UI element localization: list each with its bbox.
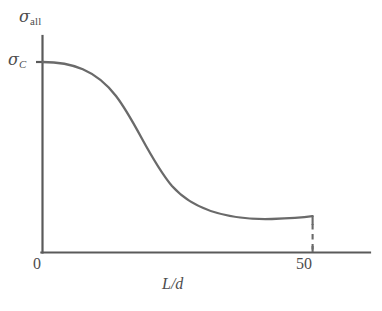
- y-axis-sigma-symbol: σ: [19, 7, 30, 26]
- allowable-stress-curve: [43, 62, 313, 219]
- y-axis-title: σall: [19, 9, 41, 27]
- sigma-c-symbol: σ: [8, 50, 19, 69]
- plot-canvas: [0, 0, 382, 311]
- x-tick-label-50: 50: [296, 256, 312, 272]
- x-tick-label-0: 0: [33, 256, 41, 272]
- sigma-c-label: σC: [8, 52, 26, 70]
- y-axis-subscript: all: [30, 15, 41, 27]
- x-axis-title: L/d: [162, 276, 183, 292]
- figure-root: σall σC L/d 0 50: [0, 0, 382, 311]
- sigma-c-subscript: C: [19, 58, 26, 70]
